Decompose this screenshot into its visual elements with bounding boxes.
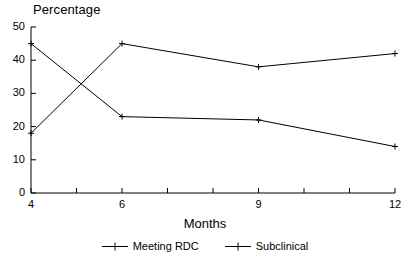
- legend-marker-icon: [102, 241, 128, 252]
- data-point-marker: [392, 51, 398, 57]
- y-axis-tick-label: 30: [3, 86, 25, 98]
- x-axis-label: Months: [0, 216, 410, 231]
- data-point-marker: [256, 64, 262, 70]
- chart-legend: Meeting RDC Subclinical: [0, 240, 410, 252]
- x-axis-tick-label: 4: [19, 198, 43, 210]
- legend-label: Meeting RDC: [133, 240, 199, 252]
- data-point-marker: [256, 117, 262, 123]
- chart-page: Percentage Months Meeting RDC Subclinica…: [0, 0, 410, 271]
- y-axis-tick-label: 40: [3, 53, 25, 65]
- y-axis-tick-label: 10: [3, 153, 25, 165]
- x-axis-tick-label: 6: [110, 198, 134, 210]
- data-point-marker: [392, 144, 398, 150]
- legend-label: Subclinical: [256, 240, 309, 252]
- series-line-subclinical: [31, 44, 395, 134]
- legend-marker-icon: [225, 241, 251, 252]
- y-axis-tick-label: 0: [3, 186, 25, 198]
- y-axis-tick-label: 50: [3, 20, 25, 32]
- x-axis-tick-label: 12: [383, 198, 407, 210]
- x-axis-tick-label: 9: [247, 198, 271, 210]
- legend-item-meeting-rdc: Meeting RDC: [102, 240, 199, 252]
- y-axis-tick-label: 20: [3, 120, 25, 132]
- legend-item-subclinical: Subclinical: [225, 240, 309, 252]
